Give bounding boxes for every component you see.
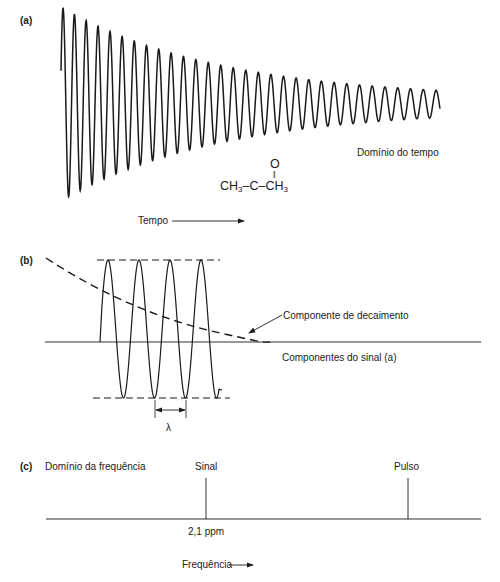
decay-pointer-arrow [249, 315, 282, 333]
decay-component-label: Componente de decaimento [283, 311, 409, 321]
pulse-label: Pulso [394, 462, 419, 472]
time-axis-label: Tempo [138, 216, 168, 226]
wavelength-symbol: λ [166, 423, 171, 433]
frequency-domain-label: Domínio da frequência [45, 462, 146, 472]
panel-c-label: (c) [20, 462, 32, 472]
chemical-shift-label: 2,1 ppm [188, 527, 224, 537]
time-domain-label: Domínio do tempo [357, 148, 439, 158]
signal-components-label: Componentes do sinal (a) [282, 353, 397, 363]
panel-b-label: (b) [20, 256, 33, 266]
double-bond: || [273, 170, 275, 177]
nmr-fid-diagram [0, 0, 500, 582]
frequency-axis-label: Frequência [182, 560, 232, 570]
acetone-structure: O || CH3–C–CH3 [220, 158, 330, 198]
acetone-formula: CH3–C–CH3 [220, 180, 288, 194]
carbonyl-oxygen: O [270, 158, 280, 171]
signal-label: Sinal [195, 462, 217, 472]
decay-component-curve [46, 258, 270, 342]
panel-a-label: (a) [20, 16, 32, 26]
